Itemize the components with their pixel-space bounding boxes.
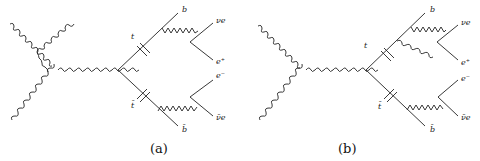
positron-line	[190, 42, 213, 60]
positron-line	[437, 42, 458, 60]
top-quark-line	[118, 13, 178, 70]
label-b: b	[182, 6, 187, 14]
radiated-gluon	[397, 40, 433, 57]
electron-line	[438, 80, 458, 97]
label-nu-e: νe	[461, 19, 471, 27]
gluon-incoming-bottom-left	[259, 64, 302, 120]
w-minus-boson	[407, 105, 443, 110]
antineutrino-line	[190, 97, 213, 116]
electron-line	[190, 80, 213, 97]
label-tbar: t̄	[378, 103, 381, 111]
label-bbar: b̄	[182, 126, 187, 134]
antitop-cut-mark-1	[384, 89, 394, 99]
gluon-propagator	[58, 68, 139, 72]
feynman-diagram-b: t t̄ b b̄ νe e⁺ e⁻ ν̄e (b)	[240, 0, 480, 161]
gluon-crossing-top-right	[37, 24, 74, 72]
w-minus-boson	[158, 106, 197, 111]
label-nu-e: νe	[216, 17, 226, 25]
label-t: t	[131, 33, 134, 41]
label-b: b	[430, 6, 435, 14]
top-cut-mark-2	[384, 48, 394, 58]
w-plus-boson	[162, 28, 198, 33]
diagram-b-graphics	[240, 0, 480, 161]
neutrino-line	[190, 23, 213, 42]
label-nubar-e: ν̄e	[216, 114, 226, 122]
gluon-incoming-top-left	[10, 23, 52, 66]
label-bbar: b̄	[430, 126, 435, 134]
label-e-minus: e⁻	[216, 72, 225, 80]
label-nubar-e: ν̄e	[461, 114, 471, 122]
top-quark-line	[366, 13, 425, 70]
top-cut-mark-1	[381, 51, 391, 61]
w-plus-boson	[411, 27, 446, 32]
label-e-plus: e⁺	[461, 59, 470, 67]
antitop-cut-mark-2	[387, 92, 397, 102]
antitop-quark-line	[118, 70, 178, 126]
caption-b: (b)	[338, 142, 356, 155]
label-tbar: t̄	[131, 102, 134, 110]
label-t: t	[364, 42, 367, 50]
label-e-plus: e⁺	[216, 58, 225, 66]
caption-a: (a)	[150, 142, 168, 155]
antitop-cut-mark-2	[140, 92, 150, 102]
gluon-incoming-bottom-left	[11, 64, 54, 120]
antitop-cut-mark-1	[137, 89, 147, 99]
label-e-minus: e⁻	[461, 75, 470, 83]
diagram-a-graphics	[0, 0, 240, 161]
feynman-diagram-a: t t̄ b b̄ νe e⁺ e⁻ ν̄e (a)	[0, 0, 240, 161]
antitop-quark-line	[366, 70, 425, 126]
gluon-incoming-top-left	[258, 25, 300, 68]
